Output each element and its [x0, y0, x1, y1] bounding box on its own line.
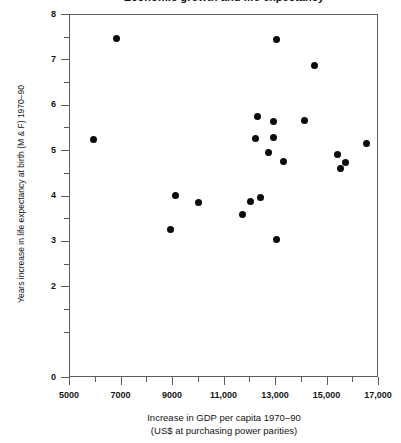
y-axis-tick-label: 8	[16, 10, 56, 19]
y-axis-tick-label: 2	[16, 282, 56, 291]
y-axis-tick	[61, 241, 69, 242]
data-point	[257, 194, 264, 201]
y-axis-minor-tick	[64, 309, 69, 310]
y-axis-tick-label: 4	[16, 191, 56, 200]
x-axis-minor-tick	[352, 377, 353, 382]
y-axis-tick	[61, 59, 69, 60]
y-axis-minor-tick	[64, 37, 69, 38]
y-axis-tick-label: 6	[16, 100, 56, 109]
data-point	[265, 149, 272, 156]
x-axis-tick	[275, 377, 276, 385]
y-axis-tick-label: 7	[16, 55, 56, 64]
x-axis-tick	[378, 377, 379, 385]
y-axis-minor-tick	[64, 173, 69, 174]
data-point	[280, 158, 287, 165]
scatter-plot-figure: Economic growth and life expectancy Year…	[0, 0, 401, 443]
y-axis-tick	[61, 14, 69, 15]
chart-title: Economic growth and life expectancy	[69, 0, 379, 3]
y-axis-tick-label: 5	[16, 146, 56, 155]
data-point	[334, 151, 341, 158]
data-point	[195, 199, 202, 206]
data-point	[172, 192, 179, 199]
x-axis-tick	[69, 377, 70, 385]
plot-area	[69, 14, 378, 377]
data-points-layer	[70, 15, 377, 376]
data-point	[311, 62, 318, 69]
data-point	[273, 36, 280, 43]
y-axis-tick-label: 3	[16, 236, 56, 245]
y-axis-tick	[61, 377, 69, 378]
y-axis-tick	[61, 286, 69, 287]
data-point	[270, 134, 277, 141]
data-point	[252, 135, 259, 142]
y-axis-minor-tick	[64, 127, 69, 128]
data-point	[167, 226, 174, 233]
x-axis-minor-tick	[301, 377, 302, 382]
x-axis-minor-tick	[198, 377, 199, 382]
y-axis-tick	[61, 150, 69, 151]
data-point	[337, 165, 344, 172]
y-axis-tick	[61, 105, 69, 106]
x-axis-title-line2: (US$ at purchasing power parities)	[69, 424, 379, 437]
y-axis-minor-tick	[64, 82, 69, 83]
x-axis-tick	[121, 377, 122, 385]
y-axis-minor-tick	[64, 332, 69, 333]
y-axis-tick	[61, 196, 69, 197]
data-point	[247, 198, 254, 205]
x-axis-tick	[224, 377, 225, 385]
data-point	[113, 35, 120, 42]
data-point	[254, 113, 261, 120]
x-axis-tick-label: 17,000	[348, 390, 401, 400]
y-axis-minor-tick	[64, 218, 69, 219]
data-point	[363, 140, 370, 147]
data-point	[273, 236, 280, 243]
x-axis-title: Increase in GDP per capita 1970–90 (US$ …	[69, 411, 379, 437]
x-axis-minor-tick	[146, 377, 147, 382]
data-point	[342, 159, 349, 166]
data-point	[301, 117, 308, 124]
x-axis-minor-tick	[95, 377, 96, 382]
data-point	[90, 136, 97, 143]
data-point	[239, 211, 246, 218]
y-axis-tick-label: 0	[16, 373, 56, 382]
data-point	[270, 118, 277, 125]
y-axis-minor-tick	[64, 264, 69, 265]
x-axis-title-line1: Increase in GDP per capita 1970–90	[69, 411, 379, 424]
x-axis-tick	[172, 377, 173, 385]
x-axis-minor-tick	[249, 377, 250, 382]
x-axis-tick	[327, 377, 328, 385]
